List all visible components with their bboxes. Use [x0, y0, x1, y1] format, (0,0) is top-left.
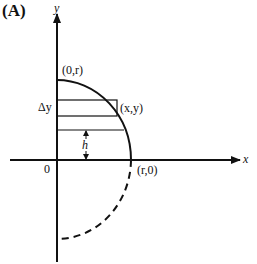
diagram: (A) y x 0 (0,r) (x,y) (r,0) Δy h: [0, 0, 257, 264]
point-right-label: (r,0): [137, 164, 158, 176]
y-axis-label: y: [54, 2, 59, 14]
semicircle-lower-dashed: [57, 160, 131, 239]
h-label: h: [82, 139, 88, 151]
point-top-label: (0,r): [62, 64, 83, 76]
semicircle-upper: [57, 80, 131, 160]
panel-label: (A): [2, 2, 26, 19]
diagram-graphics: [0, 0, 257, 264]
x-axis-label: x: [243, 153, 248, 165]
delta-y-label: Δy: [38, 101, 52, 113]
origin-label: 0: [44, 163, 50, 175]
point-strip-corner-label: (x,y): [120, 102, 143, 114]
